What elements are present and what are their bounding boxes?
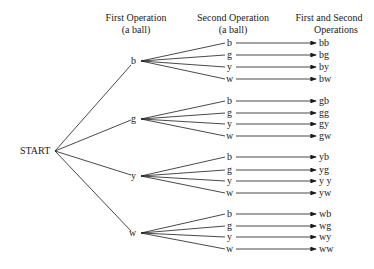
result-label: y y (319, 175, 332, 186)
result-label: bb (319, 37, 329, 48)
header-result: First and Second Operations (284, 12, 374, 36)
second-node: g (227, 49, 232, 60)
second-node: b (227, 37, 232, 48)
result-label: gy (319, 118, 329, 129)
second-node: g (227, 220, 232, 231)
second-node: w (226, 73, 233, 84)
result-label: wy (319, 231, 331, 242)
second-node: b (227, 208, 232, 219)
result-label: yw (319, 187, 331, 198)
tree-lines (0, 0, 374, 269)
result-label: by (319, 61, 329, 72)
second-node: y (227, 118, 232, 129)
header-second-operation: Second Operation (a ball) (188, 12, 278, 36)
first-node-g: g (131, 113, 136, 124)
second-node: y (227, 61, 232, 72)
header-result-line1: First and Second (284, 12, 374, 24)
result-label: gg (319, 107, 329, 118)
result-label: wg (319, 220, 331, 231)
second-node: b (227, 151, 232, 162)
result-label: ww (319, 243, 333, 254)
header-result-line2: Operations (284, 24, 374, 36)
second-node: w (226, 130, 233, 141)
second-node: w (226, 187, 233, 198)
first-node-b: b (131, 55, 136, 66)
second-node: b (227, 95, 232, 106)
result-label: gb (319, 95, 329, 106)
result-label: yb (319, 151, 329, 162)
start-node: START (20, 145, 50, 156)
result-label: yg (319, 164, 329, 175)
header-second-line1: Second Operation (188, 12, 278, 24)
first-node-w: w (129, 227, 136, 238)
second-node: y (227, 231, 232, 242)
second-node: y (227, 175, 232, 186)
second-node: g (227, 164, 232, 175)
header-second-line2: (a ball) (188, 24, 278, 36)
result-label: wb (319, 208, 331, 219)
first-node-y: y (131, 170, 136, 181)
result-label: gw (319, 130, 331, 141)
header-first-operation: First Operation (a ball) (96, 12, 176, 36)
header-first-line1: First Operation (96, 12, 176, 24)
header-first-line2: (a ball) (96, 24, 176, 36)
result-label: bw (319, 73, 331, 84)
second-node: w (226, 243, 233, 254)
second-node: g (227, 107, 232, 118)
result-label: bg (319, 49, 329, 60)
